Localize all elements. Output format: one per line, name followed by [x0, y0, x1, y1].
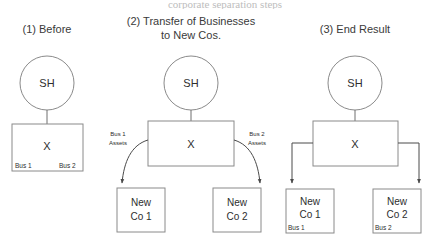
- entity-corner-label-bus1-panel1: Bus 1: [15, 162, 32, 169]
- corporate-restructuring-diagram: (1) Before SH X Bus 1 Bus 2 (2) Transfer…: [0, 0, 429, 245]
- new-co-2-label-line2-panel3: Co 2: [386, 209, 408, 220]
- edge-label-bus2-line2: Assets: [248, 140, 266, 146]
- shareholder-label-panel3: SH: [347, 77, 362, 89]
- new-co-1-label-line1-panel2: New: [131, 197, 152, 208]
- panel-transfer: (2) Transfer of Businesses to New Cos. S…: [109, 15, 266, 232]
- shareholder-label-panel2: SH: [183, 77, 198, 89]
- transfer-arrow-bus1-assets: [122, 140, 148, 183]
- new-co-2-corner-label-panel3: Bus 2: [375, 224, 392, 231]
- panel-transfer-title-line1: (2) Transfer of Businesses: [127, 15, 256, 27]
- edge-label-bus2-line1: Bus 2: [249, 131, 265, 137]
- new-co-1-label-line1-panel3: New: [300, 196, 321, 207]
- panel-before: (1) Before SH X Bus 1 Bus 2: [12, 23, 83, 171]
- panel-before-title: (1) Before: [23, 23, 72, 35]
- edge-label-bus1-line2: Assets: [109, 140, 127, 146]
- new-co-1-label-line2-panel3: Co 1: [299, 209, 321, 220]
- panel-transfer-title-line2: to New Cos.: [161, 29, 221, 41]
- new-co-2-label-line2-panel2: Co 2: [226, 211, 248, 222]
- new-co-1-label-line2-panel2: Co 1: [130, 211, 152, 222]
- edge-label-bus1-line1: Bus 1: [110, 131, 126, 137]
- entity-label-x-panel1: X: [43, 140, 51, 152]
- panel-end-result-title: (3) End Result: [320, 23, 390, 35]
- clipped-header-text: corporate separation steps: [110, 0, 340, 9]
- diagram-canvas: corporate separation steps (1) Before SH…: [0, 0, 429, 245]
- entity-corner-label-bus2-panel1: Bus 2: [59, 162, 76, 169]
- shareholder-label-panel1: SH: [39, 77, 54, 89]
- new-co-2-label-line1-panel3: New: [387, 196, 408, 207]
- panel-end-result: (3) End Result SH X New Co 1 Bus 1 New C…: [286, 23, 421, 233]
- new-co-2-label-line1-panel2: New: [227, 197, 248, 208]
- new-co-box-2-panel2: [213, 188, 261, 232]
- elbow-arrow-to-new-co-2: [398, 143, 419, 183]
- transfer-arrow-bus2-assets: [234, 140, 260, 183]
- new-co-1-corner-label-panel3: Bus 1: [288, 224, 305, 231]
- entity-label-x-panel2: X: [187, 138, 195, 150]
- entity-label-x-panel3: X: [351, 138, 359, 150]
- new-co-box-1-panel2: [117, 188, 165, 232]
- elbow-arrow-to-new-co-1: [292, 143, 313, 183]
